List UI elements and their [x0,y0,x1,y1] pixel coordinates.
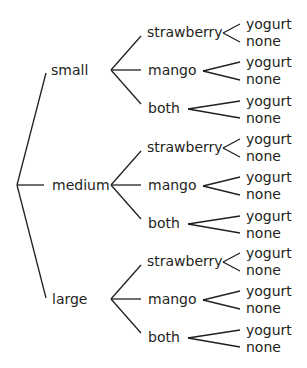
branch-large: large strawberry mango both yogurt none … [52,245,292,355]
size-label-medium: medium [52,177,110,193]
topping-label: none [246,300,281,316]
topping-label: yogurt [246,283,292,299]
topping-label: none [246,339,281,355]
topping-label: none [246,225,281,241]
flavor-label: both [148,329,180,345]
topping-label: yogurt [246,169,292,185]
branch-medium: medium strawberry mango both yogurt none… [52,131,292,241]
topping-label: yogurt [246,131,292,147]
topping-label: none [246,71,281,87]
topping-label: yogurt [246,16,292,32]
topping-label: none [246,262,281,278]
topping-label: none [246,110,281,126]
branch-small: small strawberry mango both yogurt none … [51,16,292,126]
flavor-label: strawberry [147,24,223,40]
flavor-label: strawberry [147,139,223,155]
flavor-label: mango [148,177,197,193]
size-label-large: large [52,291,87,307]
topping-label: none [246,33,281,49]
flavor-label: strawberry [147,253,223,269]
topping-label: yogurt [246,322,292,338]
topping-label: yogurt [246,208,292,224]
topping-label: yogurt [246,54,292,70]
size-label-small: small [51,62,88,78]
edge-root-small [17,73,46,185]
topping-label: none [246,186,281,202]
flavor-label: both [148,100,180,116]
topping-label: yogurt [246,245,292,261]
flavor-label: mango [148,62,197,78]
flavor-label: both [148,215,180,231]
flavor-label: mango [148,291,197,307]
tree-diagram: small strawberry mango both yogurt none … [0,0,307,368]
topping-label: yogurt [246,93,292,109]
root-edges [17,73,46,298]
edge-root-large [17,185,46,298]
topping-label: none [246,148,281,164]
